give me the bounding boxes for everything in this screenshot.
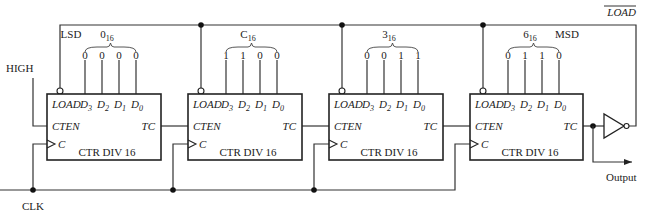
inverter-bubble-icon <box>624 124 629 129</box>
high-wire <box>33 78 47 126</box>
svg-text:LOAD: LOAD <box>192 98 222 110</box>
brace-icon <box>367 43 418 52</box>
pin-cten: CTEN <box>52 120 80 132</box>
svg-text:1: 1 <box>398 49 404 61</box>
svg-text:0: 0 <box>381 49 387 61</box>
svg-text:1: 1 <box>539 49 545 61</box>
msd-label: MSD <box>555 28 579 40</box>
svg-text:016: 016 <box>100 28 114 43</box>
clk-wire-2 <box>173 144 188 190</box>
svg-text:C: C <box>199 138 207 150</box>
inverter-icon <box>604 114 624 138</box>
clk-label: CLK <box>22 200 44 212</box>
svg-text:0: 0 <box>99 49 105 61</box>
svg-text:LOAD: LOAD <box>474 98 504 110</box>
svg-text:CTEN: CTEN <box>193 120 221 132</box>
svg-text:0: 0 <box>116 49 122 61</box>
brace-icon <box>85 43 136 52</box>
svg-text:CTR DIV 16: CTR DIV 16 <box>219 146 277 158</box>
svg-text:TC: TC <box>564 120 578 132</box>
counter-4: LOAD D3 D2 D1 D0 CTEN TC C CTR DIV 16 0 … <box>470 28 583 160</box>
svg-text:1: 1 <box>240 49 246 61</box>
svg-text:CTEN: CTEN <box>334 120 362 132</box>
load-bubble-icon <box>198 88 204 94</box>
svg-text:0: 0 <box>257 49 263 61</box>
svg-text:C16: C16 <box>240 28 255 43</box>
counter-3: LOAD D3 D2 D1 D0 CTEN TC C CTR DIV 16 0 … <box>329 28 443 160</box>
output-label: Output <box>606 171 637 183</box>
counter-name: CTR DIV 16 <box>78 146 136 158</box>
junction-dot <box>311 187 317 193</box>
svg-text:CTR DIV 16: CTR DIV 16 <box>501 146 559 158</box>
svg-text:1: 1 <box>522 49 528 61</box>
high-label: HIGH <box>6 62 34 74</box>
pin-c: C <box>58 138 66 150</box>
svg-text:TC: TC <box>424 120 438 132</box>
svg-text:LOAD: LOAD <box>333 98 363 110</box>
junction-dot <box>480 22 486 28</box>
clk-wire-1 <box>33 144 47 190</box>
pin-load: LOAD <box>51 98 81 110</box>
svg-text:616: 616 <box>523 28 537 43</box>
svg-text:TC: TC <box>283 120 297 132</box>
junction-dot <box>170 187 176 193</box>
pin-tc: TC <box>142 120 156 132</box>
load-bar-label: LOAD <box>606 6 636 18</box>
load-bubble-icon <box>480 88 486 94</box>
brace-icon <box>226 43 277 52</box>
svg-text:C: C <box>340 138 348 150</box>
svg-text:C: C <box>481 138 489 150</box>
output-arrow-icon <box>624 159 632 165</box>
svg-text:316: 316 <box>382 28 396 43</box>
lsd-label: LSD <box>61 28 82 40</box>
load-bubble-icon <box>339 88 345 94</box>
counter-circuit-diagram: LOAD HIGH CLK Output LOAD D3 D2 D1 D0 CT… <box>0 0 658 215</box>
junction-dot <box>198 22 204 28</box>
counter-1: LOAD D3 D2 D1 D0 CTEN TC C CTR DIV 16 0 … <box>47 28 161 160</box>
junction-dot <box>339 22 345 28</box>
load-bubble-icon <box>57 88 63 94</box>
counter-2: LOAD D3 D2 D1 D0 CTEN TC C CTR DIV 16 1 … <box>188 28 302 160</box>
svg-text:CTEN: CTEN <box>475 120 503 132</box>
brace-icon <box>508 43 559 52</box>
svg-text:CTR DIV 16: CTR DIV 16 <box>360 146 418 158</box>
clk-wire-3 <box>314 144 329 190</box>
junction-dot <box>30 187 36 193</box>
